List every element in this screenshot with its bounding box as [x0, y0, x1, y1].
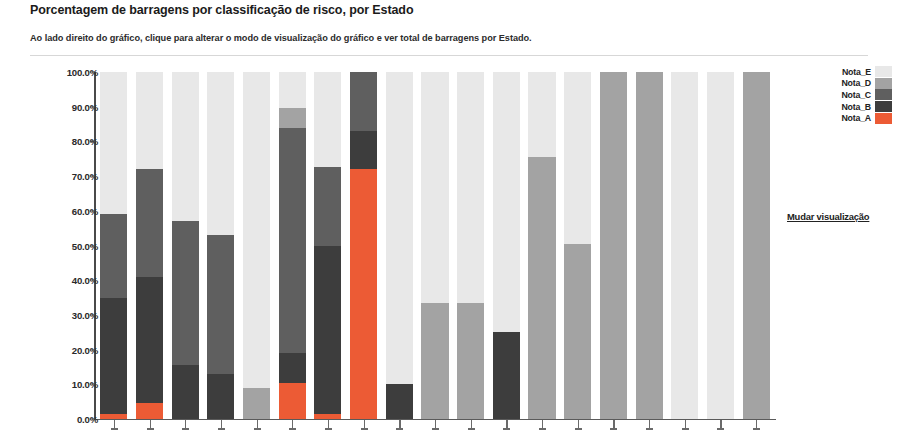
bar-segment-nota_e[interactable] — [671, 72, 698, 419]
bar-segment-nota_e[interactable] — [564, 72, 591, 244]
bar-segment-nota_e[interactable] — [386, 72, 413, 384]
x-axis-tick-foot — [182, 428, 189, 430]
y-axis-tick-mark — [90, 314, 95, 315]
bar-segment-nota_b[interactable] — [493, 332, 520, 419]
bar-segment-nota_e[interactable] — [457, 72, 484, 303]
bar-column[interactable] — [600, 72, 627, 419]
bar-segment-nota_b[interactable] — [350, 131, 377, 169]
chart-page: Porcentagem de barragens por classificaç… — [0, 0, 899, 430]
bar-segment-nota_c[interactable] — [350, 72, 377, 131]
bar-segment-nota_e[interactable] — [421, 72, 448, 303]
bar-column[interactable] — [172, 72, 199, 419]
x-axis-tick-foot — [396, 428, 403, 430]
plot-area — [96, 72, 774, 419]
bar-column[interactable] — [457, 72, 484, 419]
y-axis-tick-mark — [90, 106, 95, 107]
x-axis-tick-foot — [575, 428, 582, 430]
legend-item-label: Nota_D — [841, 78, 871, 88]
bar-column[interactable] — [207, 72, 234, 419]
bar-segment-nota_d[interactable] — [564, 244, 591, 419]
y-axis-tick-mark — [90, 418, 95, 419]
bar-column[interactable] — [528, 72, 555, 419]
bar-segment-nota_a[interactable] — [350, 169, 377, 419]
x-axis-tick-foot — [289, 428, 296, 430]
bar-column[interactable] — [493, 72, 520, 419]
legend-item-nota_a[interactable]: Nota_A — [792, 112, 892, 124]
bar-segment-nota_e[interactable] — [100, 72, 127, 214]
bar-segment-nota_e[interactable] — [172, 72, 199, 221]
bar-segment-nota_e[interactable] — [493, 72, 520, 332]
bar-segment-nota_e[interactable] — [528, 72, 555, 157]
x-axis-tick-foot — [432, 428, 439, 430]
x-axis-tick-foot — [147, 428, 154, 430]
legend-swatch-nota_d — [875, 78, 892, 89]
bar-segment-nota_c[interactable] — [207, 235, 234, 374]
bar-segment-nota_c[interactable] — [279, 128, 306, 354]
bar-segment-nota_d[interactable] — [600, 72, 627, 419]
bar-segment-nota_c[interactable] — [136, 169, 163, 277]
legend-swatch-nota_b — [875, 101, 892, 112]
bar-segment-nota_d[interactable] — [636, 72, 663, 419]
bar-segment-nota_e[interactable] — [707, 72, 734, 419]
bar-segment-nota_e[interactable] — [136, 72, 163, 169]
legend-item-label: Nota_C — [841, 90, 871, 100]
bar-segment-nota_d[interactable] — [243, 388, 270, 419]
bar-column[interactable] — [350, 72, 377, 419]
bar-column[interactable] — [707, 72, 734, 419]
bar-segment-nota_a[interactable] — [136, 403, 163, 419]
y-axis-tick-mark — [90, 280, 95, 281]
bar-segment-nota_a[interactable] — [314, 414, 341, 419]
bar-column[interactable] — [314, 72, 341, 419]
bar-segment-nota_b[interactable] — [279, 353, 306, 382]
bar-segment-nota_e[interactable] — [279, 72, 306, 108]
bar-segment-nota_d[interactable] — [743, 72, 770, 419]
change-visualization-link[interactable]: Mudar visualização — [787, 211, 869, 222]
bar-segment-nota_e[interactable] — [314, 72, 341, 167]
bar-segment-nota_a[interactable] — [279, 383, 306, 419]
bar-segment-nota_b[interactable] — [172, 365, 199, 419]
legend-swatch-nota_a — [875, 113, 892, 124]
bar-column[interactable] — [136, 72, 163, 419]
x-axis-tick-foot — [717, 428, 724, 430]
bar-segment-nota_b[interactable] — [100, 298, 127, 414]
bar-segment-nota_d[interactable] — [528, 157, 555, 419]
bar-column[interactable] — [671, 72, 698, 419]
bar-column[interactable] — [100, 72, 127, 419]
legend-item-nota_d[interactable]: Nota_D — [792, 78, 892, 90]
bar-segment-nota_c[interactable] — [100, 214, 127, 297]
bar-segment-nota_c[interactable] — [172, 221, 199, 365]
y-axis-tick-mark — [90, 210, 95, 211]
bar-column[interactable] — [421, 72, 448, 419]
legend-item-nota_c[interactable]: Nota_C — [792, 89, 892, 101]
page-title: Porcentagem de barragens por classificaç… — [30, 3, 413, 17]
bar-column[interactable] — [636, 72, 663, 419]
bar-column[interactable] — [386, 72, 413, 419]
bar-column[interactable] — [564, 72, 591, 419]
bar-segment-nota_b[interactable] — [136, 277, 163, 404]
bar-segment-nota_d[interactable] — [457, 303, 484, 419]
legend-item-label: Nota_A — [841, 113, 871, 123]
y-axis-tick-mark — [90, 349, 95, 350]
x-axis-tick-foot — [539, 428, 546, 430]
bar-segment-nota_b[interactable] — [386, 384, 413, 419]
bar-segment-nota_c[interactable] — [314, 167, 341, 245]
y-axis-tick-mark — [90, 176, 95, 177]
bar-segment-nota_d[interactable] — [421, 303, 448, 419]
x-axis-tick-foot — [682, 428, 689, 430]
legend-item-nota_b[interactable]: Nota_B — [792, 101, 892, 113]
x-axis-tick-foot — [254, 428, 261, 430]
bar-segment-nota_b[interactable] — [207, 374, 234, 419]
bar-column[interactable] — [279, 72, 306, 419]
y-axis-tick-mark — [90, 384, 95, 385]
bar-segment-nota_e[interactable] — [243, 72, 270, 388]
bar-segment-nota_b[interactable] — [314, 246, 341, 414]
legend-swatch-nota_c — [875, 89, 892, 100]
bar-segment-nota_e[interactable] — [207, 72, 234, 235]
bar-segment-nota_d[interactable] — [279, 108, 306, 127]
bar-column[interactable] — [243, 72, 270, 419]
bar-segment-nota_a[interactable] — [100, 414, 127, 419]
x-axis-tick-foot — [468, 428, 475, 430]
legend-item-nota_e[interactable]: Nota_E — [792, 66, 892, 78]
bar-column[interactable] — [743, 72, 770, 419]
header-divider — [30, 55, 868, 56]
